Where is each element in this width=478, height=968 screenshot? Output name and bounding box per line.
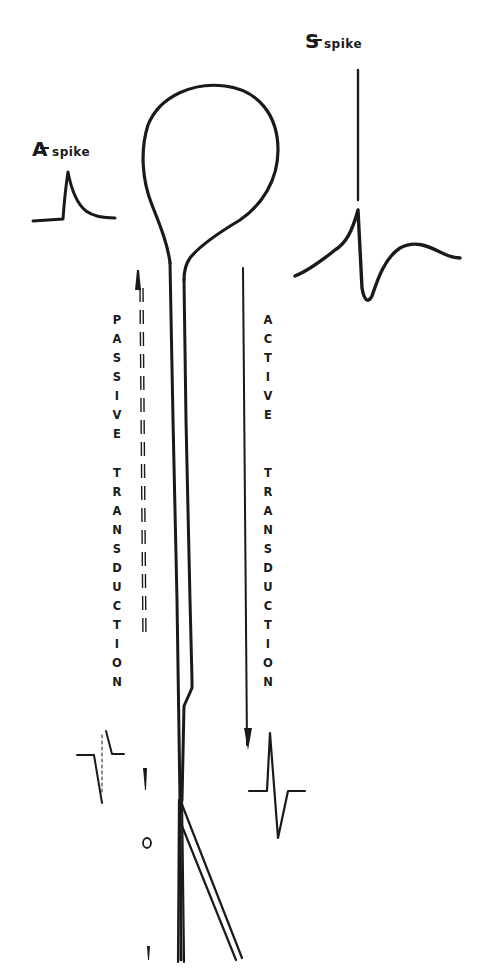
vertical-letter: N	[260, 521, 276, 540]
vertical-letter: D	[109, 559, 125, 578]
s-spike-text: spike	[324, 37, 362, 51]
vertical-letter: O	[109, 654, 125, 673]
vertical-letter: S	[109, 349, 125, 368]
s-spike-label: Sspike	[305, 29, 362, 53]
s-spike-letter: S	[305, 29, 320, 53]
vertical-letter: S	[260, 540, 276, 559]
vertical-letter: C	[260, 597, 276, 616]
active-transduction-line	[243, 268, 247, 745]
vertical-letter: N	[109, 521, 125, 540]
vertical-letter: R	[109, 483, 125, 502]
a-spike-letter: A	[32, 137, 48, 161]
vertical-letter: O	[260, 654, 276, 673]
passive-label: PASSIVE	[109, 311, 125, 444]
passive-arrow-head-icon	[135, 270, 141, 290]
vertical-letter: D	[260, 559, 276, 578]
s-spike-trace-body	[295, 210, 460, 300]
vertical-letter: S	[109, 368, 125, 387]
vertical-letter: R	[260, 483, 276, 502]
a-spike-trace	[33, 172, 115, 221]
diagram-canvas: Sspike Aspike PASSIVE TRANSDUCTION ACTIV…	[0, 0, 478, 968]
vertical-letter: V	[260, 387, 276, 406]
active-arrow-head-icon	[244, 728, 252, 750]
transduction-left-label: TRANSDUCTION	[109, 464, 125, 692]
passive-tick-mark-2	[147, 946, 150, 960]
vertical-letter: U	[109, 578, 125, 597]
vertical-letter: A	[109, 502, 125, 521]
vertical-letter: N	[109, 673, 125, 692]
vertical-letter: I	[109, 387, 125, 406]
axon-right-line	[182, 280, 192, 800]
vertical-letter: V	[109, 406, 125, 425]
recorded-passive-trace	[77, 731, 124, 803]
passive-tick-mark-1	[143, 768, 147, 790]
vertical-letter: P	[109, 311, 125, 330]
passive-circle-mark	[143, 838, 151, 848]
soma-loop	[143, 85, 278, 280]
axon-branch-inner	[182, 826, 236, 960]
recorded-active-trace	[249, 733, 305, 838]
a-spike-label: Aspike	[32, 137, 90, 161]
vertical-letter: T	[109, 464, 125, 483]
active-label: ACTIVE	[260, 311, 276, 425]
axon-bottom-line-b	[178, 800, 179, 962]
vertical-letter: U	[260, 578, 276, 597]
vertical-letter: T	[260, 349, 276, 368]
vertical-letter: T	[260, 616, 276, 635]
vertical-letter: C	[260, 330, 276, 349]
a-spike-text: spike	[52, 145, 90, 159]
vertical-letter: I	[260, 635, 276, 654]
vertical-letter: E	[260, 406, 276, 425]
vertical-letter: N	[260, 673, 276, 692]
vertical-letter: T	[260, 464, 276, 483]
vertical-letter: T	[109, 616, 125, 635]
vertical-letter: A	[260, 502, 276, 521]
axon-branch-outer	[181, 802, 242, 958]
passive-transduction-dashes	[140, 288, 146, 640]
vertical-letter: A	[109, 330, 125, 349]
transduction-right-label: TRANSDUCTION	[260, 464, 276, 692]
vertical-letter: A	[260, 311, 276, 330]
vertical-letter: C	[109, 597, 125, 616]
vertical-letter: I	[260, 368, 276, 387]
vertical-letter: S	[109, 540, 125, 559]
vertical-letter: I	[109, 635, 125, 654]
vertical-letter: E	[109, 425, 125, 444]
